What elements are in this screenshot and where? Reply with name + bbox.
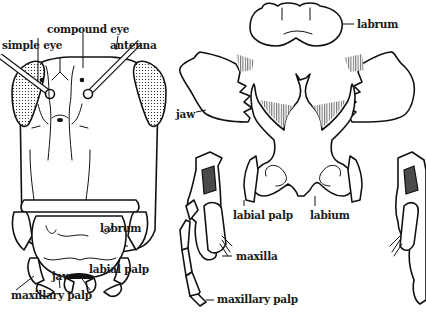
mouthparts-exploded-view [180,3,426,306]
label-maxillary-palp: maxillary palp [217,294,298,305]
simple-eye-left [40,78,45,83]
label-labrum: labrum [357,19,398,30]
label-simple-eye: simple eye [2,40,62,51]
labrum-part [250,3,342,46]
label-maxilla: maxilla [236,251,278,262]
label-compound-eye: compound eye [47,24,129,35]
labium-part [251,74,355,196]
label-labrum-head: labrum [100,223,141,234]
head-front-view [0,33,166,296]
diagram-artwork [0,0,426,315]
label-labium: labium [310,210,350,221]
mouthparts-diagram: compound eye simple eye antenna labrum j… [0,0,426,315]
simple-eye-right [80,78,85,83]
label-jaw: jaw [176,109,195,120]
label-labial-palp: labial palp [233,210,293,221]
label-maxillary-palp-head: maxillary palp [11,290,92,301]
simple-eye-median [57,118,63,122]
label-antenna: antenna [110,40,157,51]
maxilla-left-pad [202,166,216,194]
label-jaw-head: jaw [52,271,71,282]
label-labial-palp-head: labial palp [89,264,149,275]
